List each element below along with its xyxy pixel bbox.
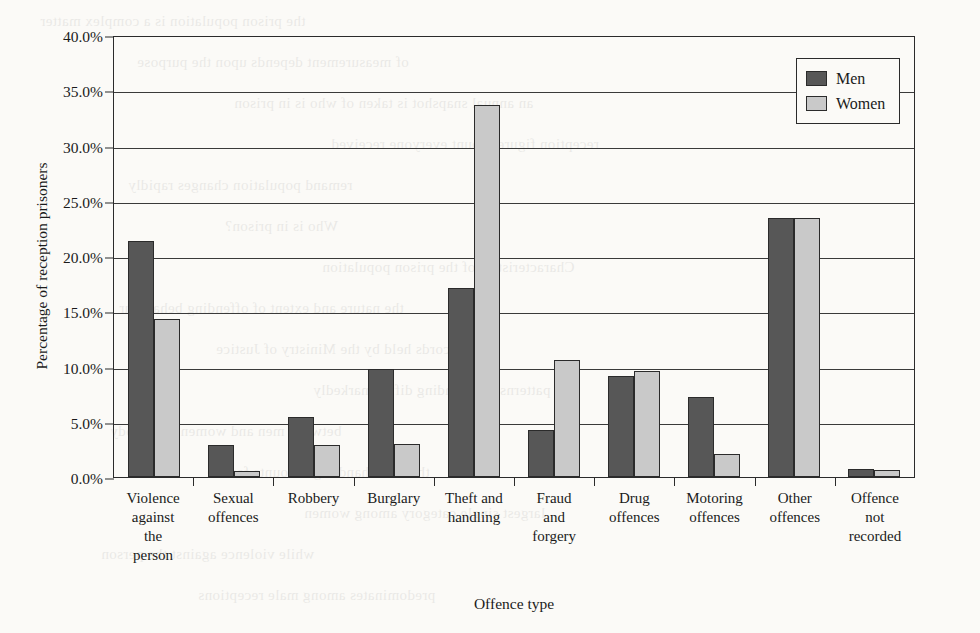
bar-women [314, 445, 340, 477]
y-axis-tick-mark [105, 479, 114, 480]
bar-group [674, 37, 754, 477]
bar-group [434, 37, 514, 477]
bar-men [768, 218, 794, 477]
legend-swatch-women [806, 96, 827, 111]
y-axis-tick-mark [105, 368, 114, 369]
legend-swatch-men [806, 71, 827, 86]
y-axis-tick-label: 20.0% [63, 249, 103, 267]
y-axis-tick-label: 30.0% [63, 139, 103, 157]
bar-group [594, 37, 674, 477]
bar-men [528, 430, 554, 478]
x-axis-tick-mark [193, 478, 194, 486]
bar-women [154, 319, 180, 477]
bar-men [368, 369, 394, 477]
x-axis-tick-label: Robbery [273, 489, 353, 565]
x-axis-tick-label: Theft andhandling [434, 489, 514, 565]
x-axis-tick-labels: ViolenceagainstthepersonSexualoffencesRo… [113, 489, 915, 565]
y-axis-tick-mark [105, 202, 114, 203]
plot-area: 0.0%5.0%10.0%15.0%20.0%25.0%30.0%35.0%40… [113, 36, 915, 478]
x-axis-tick-label: Fraudandforgery [514, 489, 594, 565]
bar-chart: Percentage of reception prisoners 0.0%5.… [0, 0, 980, 633]
bar-women [234, 471, 260, 477]
y-axis-tick-mark [105, 147, 114, 148]
y-axis-tick-label: 5.0% [71, 415, 103, 433]
y-axis-tick-mark [105, 258, 114, 259]
x-axis-tick-mark [273, 478, 274, 486]
x-axis-tick-mark [674, 478, 675, 486]
x-axis-tick-mark [434, 478, 435, 486]
bar-women [714, 454, 740, 477]
bar-men [608, 376, 634, 477]
x-axis-tick-label: Violenceagainsttheperson [113, 489, 193, 565]
bar-men [448, 288, 474, 477]
x-axis-tick-mark [755, 478, 756, 486]
legend-label-men: Men [836, 70, 865, 88]
y-axis-tick-mark [105, 313, 114, 314]
x-axis-tick-label: Motoringoffences [674, 489, 754, 565]
y-axis-tick-label: 10.0% [63, 360, 103, 378]
bar-men [208, 445, 234, 477]
x-axis-tick-mark [594, 478, 595, 486]
chart-legend: Men Women [796, 58, 900, 124]
bar-women [874, 470, 900, 477]
y-axis-tick-mark [105, 423, 114, 424]
bar-women [394, 444, 420, 477]
bar-group [354, 37, 434, 477]
x-axis-tick-label: Offencenotrecorded [835, 489, 915, 565]
x-axis-title: Offence type [113, 595, 915, 613]
y-axis-tick-label: 35.0% [63, 83, 103, 101]
x-axis-tick-mark [354, 478, 355, 486]
bar-men [848, 469, 874, 477]
x-axis-tick-label: Burglary [354, 489, 434, 565]
x-axis-tick-mark [835, 478, 836, 486]
bar-group [194, 37, 274, 477]
x-axis-tick-mark [514, 478, 515, 486]
y-axis-tick-label: 0.0% [71, 470, 103, 488]
y-axis-tick-label: 40.0% [63, 28, 103, 46]
bar-women [474, 105, 500, 477]
x-axis-tick-label: Sexualoffences [193, 489, 273, 565]
x-axis-tick-label: Otheroffences [755, 489, 835, 565]
bar-groups [114, 37, 914, 477]
y-axis-tick-label: 25.0% [63, 194, 103, 212]
bar-men [688, 397, 714, 477]
bar-women [554, 360, 580, 477]
bar-group [274, 37, 354, 477]
bar-women [634, 371, 660, 477]
bar-group [514, 37, 594, 477]
legend-entry-women: Women [806, 91, 885, 116]
x-axis-tick-label: Drugoffences [594, 489, 674, 565]
bar-men [288, 417, 314, 477]
legend-label-women: Women [836, 95, 885, 113]
y-axis-tick-label: 15.0% [63, 304, 103, 322]
y-axis-tick-mark [105, 92, 114, 93]
bar-women [794, 218, 820, 477]
y-axis-title: Percentage of reception prisoners [33, 56, 51, 476]
bar-men [128, 241, 154, 477]
bar-group [114, 37, 194, 477]
legend-entry-men: Men [806, 66, 885, 91]
y-axis-tick-mark [105, 37, 114, 38]
